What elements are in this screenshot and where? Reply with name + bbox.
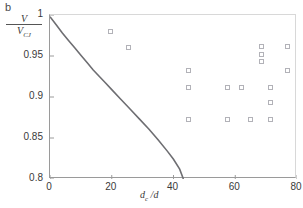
y-axis-title-denominator-subscript: CJ: [23, 31, 31, 39]
x-tick-label: 20: [96, 182, 126, 192]
data-point-marker: [259, 52, 264, 57]
data-point-marker: [108, 29, 113, 34]
data-point-marker: [248, 117, 253, 122]
data-point-marker: [268, 117, 273, 122]
data-point-marker: [225, 85, 230, 90]
x-tick-label: 80: [281, 182, 303, 192]
data-point-marker: [259, 44, 264, 49]
data-point-marker: [186, 85, 191, 90]
x-tick-label: 0: [34, 182, 64, 192]
data-point-marker: [285, 44, 290, 49]
data-point-marker: [268, 85, 273, 90]
data-point-marker: [259, 59, 264, 64]
data-point-marker: [285, 68, 290, 73]
data-point-marker: [186, 68, 191, 73]
y-axis-title-denominator: VCJ: [6, 25, 42, 41]
y-tick-label: 0.85: [0, 132, 43, 142]
data-point-marker: [186, 117, 191, 122]
y-tick-label: 1: [0, 9, 43, 19]
plot-area: [49, 14, 296, 178]
y-tick-label: 0.9: [0, 91, 43, 101]
axis-ticks: [50, 15, 297, 179]
data-point-marker: [268, 100, 273, 105]
data-point-marker: [126, 45, 131, 50]
x-axis-title: dc /d: [140, 189, 158, 203]
data-point-marker: [239, 85, 244, 90]
plot-canvas: [50, 15, 297, 179]
y-tick-label: 0.95: [0, 50, 43, 60]
x-tick-label: 40: [158, 182, 188, 192]
model-curve-line: [50, 17, 183, 179]
x-tick-label: 60: [219, 182, 249, 192]
data-point-marker: [225, 117, 230, 122]
figure-panel-b: b V VCJ dc /d 0.80.850.90.951 020406080: [0, 0, 303, 208]
